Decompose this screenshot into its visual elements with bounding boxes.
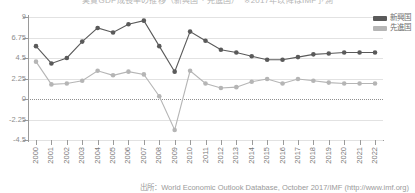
y-axis-label: -2.25 <box>9 116 26 124</box>
data-point[interactable] <box>203 38 208 43</box>
data-point[interactable] <box>126 69 131 74</box>
data-point[interactable] <box>95 26 100 31</box>
data-point[interactable] <box>326 80 331 85</box>
data-point[interactable] <box>34 59 39 64</box>
data-point[interactable] <box>172 128 177 133</box>
data-point[interactable] <box>265 58 270 63</box>
data-point[interactable] <box>234 50 239 55</box>
x-axis-tick <box>236 140 237 145</box>
x-axis-tick <box>344 140 345 145</box>
legend-item-advanced[interactable]: 先進国 <box>373 24 411 32</box>
data-point[interactable] <box>342 50 347 55</box>
data-point[interactable] <box>219 48 224 53</box>
x-axis-label: 2012 <box>217 147 225 164</box>
x-axis-tick <box>82 140 83 145</box>
x-axis-tick <box>283 140 284 145</box>
data-point[interactable] <box>203 81 208 86</box>
x-axis-tick <box>298 140 299 145</box>
data-point[interactable] <box>188 68 193 73</box>
x-axis-tick <box>329 140 330 145</box>
data-point[interactable] <box>357 50 362 55</box>
data-point[interactable] <box>249 79 254 84</box>
x-axis-tick <box>206 140 207 145</box>
x-axis-tick <box>313 140 314 145</box>
data-point[interactable] <box>65 56 70 61</box>
data-point[interactable] <box>65 81 70 86</box>
x-axis-tick <box>98 140 99 145</box>
x-axis-label: 2018 <box>309 147 317 164</box>
chart-title: 実質GDP成長率の推移（新興国・先進国） ※2017年以降はIMF予測 <box>0 0 415 5</box>
chart-container: 実質GDP成長率の推移（新興国・先進国） ※2017年以降はIMF予測 -4.5… <box>0 0 415 193</box>
x-axis-label: 2003 <box>78 147 86 164</box>
data-point[interactable] <box>49 82 54 87</box>
y-axis-label: -4.5 <box>13 136 26 144</box>
data-point[interactable] <box>249 54 254 59</box>
data-point[interactable] <box>311 52 316 57</box>
x-axis-label: 2013 <box>232 147 240 164</box>
data-point[interactable] <box>157 44 162 49</box>
data-point[interactable] <box>373 81 378 86</box>
data-point[interactable] <box>296 77 301 82</box>
data-point[interactable] <box>142 18 147 23</box>
x-axis-label: 2016 <box>279 147 287 164</box>
data-point[interactable] <box>172 69 177 74</box>
data-point[interactable] <box>111 30 116 35</box>
legend-item-emerging[interactable]: 新興国 <box>373 14 411 22</box>
data-point[interactable] <box>49 61 54 66</box>
y-axis-label: 0 <box>22 95 26 103</box>
data-point[interactable] <box>296 55 301 60</box>
x-axis-tick <box>221 140 222 145</box>
legend-swatch-emerging <box>373 16 387 21</box>
source-note: 出所：World Economic Outlook Database, Octo… <box>0 183 409 192</box>
data-point[interactable] <box>219 86 224 91</box>
data-point[interactable] <box>373 50 378 55</box>
data-point[interactable] <box>157 94 162 99</box>
data-point[interactable] <box>80 39 85 44</box>
data-point[interactable] <box>326 51 331 56</box>
data-point[interactable] <box>142 72 147 77</box>
chart-title-strip: 実質GDP成長率の推移（新興国・先進国） ※2017年以降はIMF予測 <box>0 0 415 9</box>
data-point[interactable] <box>265 77 270 82</box>
data-point[interactable] <box>95 68 100 73</box>
x-axis-tick <box>36 140 37 145</box>
x-axis-label: 2000 <box>32 147 40 164</box>
x-axis-tick <box>360 140 361 145</box>
data-point[interactable] <box>357 81 362 86</box>
x-axis-tick <box>267 140 268 145</box>
data-point[interactable] <box>111 73 116 78</box>
x-axis-label: 2001 <box>47 147 55 164</box>
x-axis-label: 2004 <box>94 147 102 164</box>
data-point[interactable] <box>280 81 285 86</box>
data-point[interactable] <box>342 81 347 86</box>
data-point[interactable] <box>311 78 316 83</box>
data-point[interactable] <box>34 44 39 49</box>
series-line <box>36 62 375 130</box>
legend-label-emerging: 新興国 <box>390 14 411 22</box>
x-axis-tick <box>128 140 129 145</box>
data-point[interactable] <box>188 29 193 34</box>
legend-swatch-advanced <box>373 26 387 31</box>
y-axis-label: 6.75 <box>11 34 26 42</box>
x-axis-label: 2022 <box>371 147 379 164</box>
x-axis-tick <box>175 140 176 145</box>
x-axis-label: 2002 <box>63 147 71 164</box>
x-axis-label: 2019 <box>325 147 333 164</box>
data-point[interactable] <box>126 22 131 27</box>
x-axis-tick <box>375 140 376 145</box>
x-axis-label: 2008 <box>155 147 163 164</box>
x-axis-tick <box>159 140 160 145</box>
x-axis-label: 2006 <box>124 147 132 164</box>
data-point[interactable] <box>234 85 239 90</box>
x-axis-label: 2011 <box>202 147 210 163</box>
x-axis-tick <box>252 140 253 145</box>
x-axis-tick <box>67 140 68 145</box>
data-point[interactable] <box>80 78 85 83</box>
x-axis-label: 2021 <box>356 147 364 164</box>
x-axis-label: 2005 <box>109 147 117 164</box>
x-axis-label: 2017 <box>294 147 302 164</box>
data-point[interactable] <box>280 58 285 63</box>
x-axis-tick <box>113 140 114 145</box>
x-axis-tick <box>51 140 52 145</box>
x-axis-tick <box>190 140 191 145</box>
legend: 新興国 先進国 <box>373 14 411 32</box>
